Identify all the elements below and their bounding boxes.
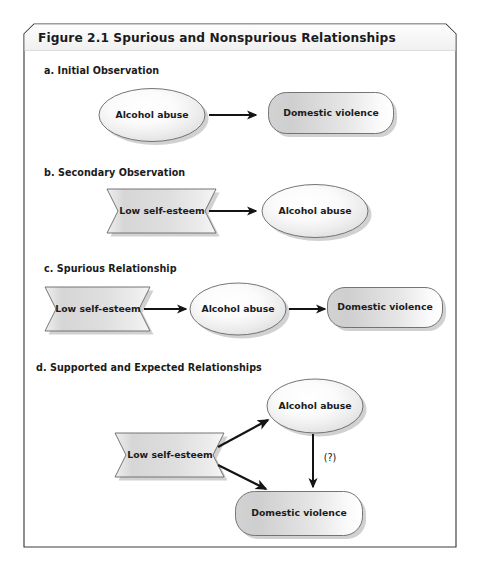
section-b-label: b. Secondary Observation (44, 167, 185, 178)
node-a-alcohol-label: Alcohol abuse (115, 109, 188, 120)
node-c-alcohol-label: Alcohol abuse (201, 303, 274, 314)
section-a-label: a. Initial Observation (44, 65, 159, 76)
figure-container: Figure 2.1 Spurious and Nonspurious Rela… (0, 0, 480, 573)
section-c-label: c. Spurious Relationship (44, 263, 177, 274)
node-d-violence-label: Domestic violence (251, 507, 347, 518)
node-b-esteem-label: Low self-esteem (119, 205, 204, 216)
figure-svg: Figure 2.1 Spurious and Nonspurious Rela… (0, 0, 480, 573)
node-c-esteem-label: Low self-esteem (55, 303, 140, 314)
node-a-violence-label: Domestic violence (283, 107, 379, 118)
node-c-violence-label: Domestic violence (337, 301, 433, 312)
figure-title: Figure 2.1 Spurious and Nonspurious Rela… (38, 31, 396, 45)
section-d-label: d. Supported and Expected Relationships (36, 362, 262, 373)
node-d-alcohol-label: Alcohol abuse (278, 400, 351, 411)
node-b-alcohol-label: Alcohol abuse (278, 205, 351, 216)
node-d-esteem-label: Low self-esteem (127, 449, 212, 460)
uncertain-marker-label: (?) (324, 452, 337, 463)
